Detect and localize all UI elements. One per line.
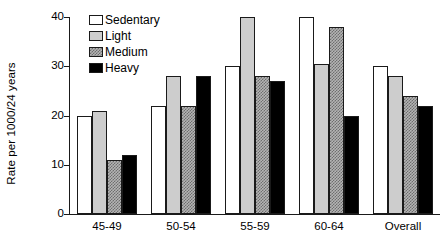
bar-sedentary[interactable]	[373, 66, 388, 214]
bar-heavy[interactable]	[122, 155, 137, 214]
y-axis-label: Rate per 1000/24 years	[0, 0, 22, 247]
bar-sedentary[interactable]	[151, 106, 166, 214]
bar-group	[299, 17, 359, 214]
legend-item-heavy: Heavy	[89, 61, 160, 75]
legend-swatch-medium-icon	[89, 47, 103, 57]
bar-medium[interactable]	[329, 27, 344, 214]
bar-light[interactable]	[92, 111, 107, 214]
legend-swatch-sedentary-icon	[89, 15, 103, 25]
x-axis-line	[69, 214, 440, 215]
bar-medium[interactable]	[107, 160, 122, 214]
legend: Sedentary Light Medium Heavy	[89, 13, 160, 75]
x-axis-label-60-64: 60-64	[314, 221, 343, 233]
x-axis-label-overall: Overall	[385, 221, 421, 233]
x-axis-label-45-49: 45-49	[92, 221, 121, 233]
legend-label-medium: Medium	[105, 46, 148, 58]
y-tick-label-20: 20	[38, 110, 64, 122]
y-tick-label-0: 0	[38, 208, 64, 220]
bar-group	[373, 17, 433, 214]
bar-heavy[interactable]	[418, 106, 433, 214]
bar-light[interactable]	[388, 76, 403, 214]
bar-light[interactable]	[240, 17, 255, 214]
legend-item-light: Light	[89, 29, 160, 43]
bar-sedentary[interactable]	[225, 66, 240, 214]
x-axis-label-50-54: 50-54	[166, 221, 195, 233]
y-axis-tick-labels: 40 30 20 10 0	[36, 0, 64, 247]
bar-heavy[interactable]	[270, 81, 285, 214]
bar-heavy[interactable]	[344, 116, 359, 215]
bar-chart: Rate per 1000/24 years 40 30 20 10 0 45-…	[0, 0, 444, 247]
legend-label-heavy: Heavy	[105, 62, 139, 74]
legend-label-sedentary: Sedentary	[105, 14, 160, 26]
bar-medium[interactable]	[403, 96, 418, 214]
bar-group	[225, 17, 285, 214]
legend-item-sedentary: Sedentary	[89, 13, 160, 27]
x-axis-label-55-59: 55-59	[240, 221, 269, 233]
bar-sedentary[interactable]	[299, 17, 314, 214]
bar-medium[interactable]	[181, 106, 196, 214]
bar-light[interactable]	[314, 64, 329, 214]
bar-group	[151, 17, 211, 214]
y-tick-label-10: 10	[38, 159, 64, 171]
y-tick-label-30: 30	[38, 61, 64, 73]
bar-light[interactable]	[166, 76, 181, 214]
legend-swatch-heavy-icon	[89, 63, 103, 73]
bar-sedentary[interactable]	[77, 116, 92, 215]
legend-swatch-light-icon	[89, 31, 103, 41]
bar-medium[interactable]	[255, 76, 270, 214]
y-tick-label-40: 40	[38, 11, 64, 23]
legend-label-light: Light	[105, 30, 131, 42]
bar-heavy[interactable]	[196, 76, 211, 214]
legend-item-medium: Medium	[89, 45, 160, 59]
